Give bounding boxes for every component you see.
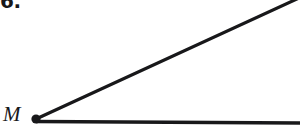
vertex-point-M-dot (31, 114, 40, 123)
lower-ray (36, 122, 300, 124)
geometry-figure: 6. M (0, 0, 300, 139)
vertex-label-M: M (3, 104, 21, 125)
angle-drawing (0, 0, 300, 139)
upper-ray (36, 0, 299, 119)
